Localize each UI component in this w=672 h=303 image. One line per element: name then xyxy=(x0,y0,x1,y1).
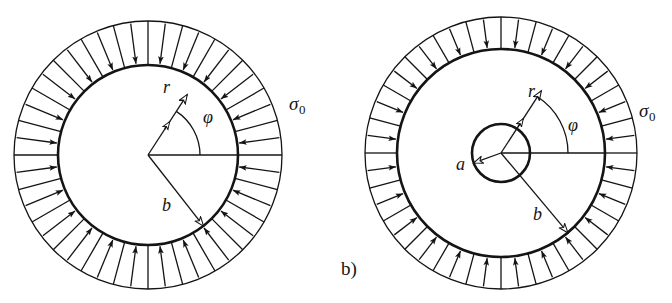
spoke-b xyxy=(466,253,474,284)
pressure-arrow-b xyxy=(450,251,461,277)
spoke-b xyxy=(575,227,598,250)
spoke-a xyxy=(235,120,278,131)
spoke-b xyxy=(405,227,428,250)
pressure-arrow-a xyxy=(97,240,112,277)
spoke-b xyxy=(370,180,401,188)
pressure-arrow-b xyxy=(450,29,461,55)
spoke-b xyxy=(466,22,474,53)
panel-a xyxy=(14,21,282,289)
spoke-b xyxy=(433,35,449,63)
pressure-arrow-b xyxy=(368,135,396,139)
pressure-arrow-b xyxy=(566,237,583,260)
pressure-arrow-b xyxy=(419,237,436,260)
pressure-arrow-a xyxy=(131,24,136,64)
pressure-arrow-a xyxy=(26,104,63,119)
pressure-arrow-b xyxy=(394,71,417,88)
spoke-a xyxy=(171,242,182,285)
pressure-arrow-b xyxy=(585,218,608,235)
label-r-panel-a: r xyxy=(163,78,170,96)
pressure-arrow-b xyxy=(419,46,436,69)
spoke-a xyxy=(171,26,182,69)
pressure-arrow-a xyxy=(183,33,198,70)
spoke-a xyxy=(113,242,124,285)
pressure-arrow-b xyxy=(515,20,519,48)
spoke-a xyxy=(19,178,62,189)
pressure-arrow-a xyxy=(233,104,270,119)
pressure-arrow-b xyxy=(377,194,403,205)
label-b-panel-b: b xyxy=(533,205,542,223)
pressure-arrow-b xyxy=(542,251,553,277)
pressure-arrow-a xyxy=(17,138,57,143)
pressure-arrow-b xyxy=(566,46,583,69)
spoke-b xyxy=(591,205,619,221)
spoke-b xyxy=(553,35,569,63)
spoke-b xyxy=(528,253,536,284)
spoke-b xyxy=(575,57,598,80)
pressure-arrow-a xyxy=(97,33,112,70)
pressure-arrow-a xyxy=(26,190,63,205)
vector-r-tick-b xyxy=(518,119,523,127)
figure-container: σ0 r φ b σ0 r φ a b b) xyxy=(0,0,672,303)
vector-a-b xyxy=(474,153,501,163)
pressure-arrow-a xyxy=(233,190,270,205)
spoke-b xyxy=(553,243,569,271)
angle-arc-a xyxy=(176,111,200,155)
label-r-panel-b: r xyxy=(528,82,535,100)
spoke-b xyxy=(405,57,428,80)
label-phi-panel-a: φ xyxy=(203,108,213,126)
pressure-arrow-b xyxy=(599,194,625,205)
spoke-a xyxy=(113,26,124,69)
pressure-arrow-b xyxy=(377,102,403,113)
spoke-b xyxy=(383,205,411,221)
pressure-arrow-a xyxy=(183,240,198,277)
spoke-a xyxy=(235,178,278,189)
pressure-arrow-b xyxy=(542,29,553,55)
diagram-panels xyxy=(14,17,637,289)
vector-b-a xyxy=(148,155,203,226)
pressure-arrow-a xyxy=(131,246,136,286)
panel-b xyxy=(365,17,637,289)
spoke-b xyxy=(601,180,632,188)
diagram-canvas xyxy=(0,0,672,303)
pressure-arrow-b xyxy=(606,135,634,139)
pressure-arrow-b xyxy=(483,20,487,48)
pressure-arrow-a xyxy=(239,138,279,143)
label-sigma-0-panel-b: σ0 xyxy=(639,101,655,124)
pressure-arrow-b xyxy=(483,258,487,286)
label-a-panel-b: a xyxy=(456,155,465,173)
vector-r-tick-a xyxy=(165,122,170,130)
pressure-arrow-b xyxy=(368,167,396,171)
angle-arc-b xyxy=(537,97,568,153)
pressure-arrow-b xyxy=(515,258,519,286)
label-sigma-0-panel-a: σ0 xyxy=(289,94,305,117)
pressure-arrow-b xyxy=(585,71,608,88)
spoke-b xyxy=(433,243,449,271)
label-phi-panel-b: φ xyxy=(568,116,578,134)
figure-caption-b: b) xyxy=(341,259,357,278)
spoke-b xyxy=(528,22,536,53)
pressure-arrow-b xyxy=(394,218,417,235)
spoke-b xyxy=(370,118,401,126)
spoke-b xyxy=(591,85,619,101)
pressure-arrow-b xyxy=(599,102,625,113)
pressure-arrow-a xyxy=(239,167,279,172)
spoke-b xyxy=(601,118,632,126)
pressure-arrow-a xyxy=(160,246,165,286)
pressure-arrow-a xyxy=(17,167,57,172)
label-b-panel-a: b xyxy=(162,196,171,214)
spoke-a xyxy=(19,120,62,131)
spoke-b xyxy=(383,85,411,101)
pressure-arrow-a xyxy=(160,24,165,64)
pressure-arrow-b xyxy=(606,167,634,171)
